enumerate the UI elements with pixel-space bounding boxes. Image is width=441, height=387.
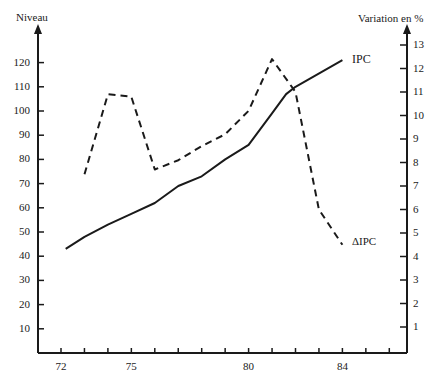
right-tick-label: 10 [413, 110, 424, 121]
right-tick-label: 12 [413, 63, 424, 74]
ipc-series-label: IPC [352, 53, 371, 65]
left-tick-label: 120 [2, 57, 30, 68]
x-tick-label: 72 [51, 361, 71, 372]
chart-plot-area [0, 0, 441, 387]
left-tick-label: 30 [2, 274, 30, 285]
left-tick-label: 50 [2, 226, 30, 237]
left-tick-label: 70 [2, 178, 30, 189]
left-tick-label: 90 [2, 129, 30, 140]
left-tick-label: 40 [2, 250, 30, 261]
left-axis-title: Niveau [16, 12, 48, 23]
right-tick-label: 2 [413, 298, 419, 309]
left-tick-label: 110 [2, 81, 30, 92]
delta-ipc-series-label: ΔIPC [352, 236, 376, 247]
x-tick-label: 75 [121, 361, 141, 372]
right-tick-label: 3 [413, 274, 419, 285]
left-axis-arrow-icon [34, 24, 42, 34]
ipc-line [66, 60, 343, 249]
right-tick-label: 9 [413, 133, 419, 144]
x-tick-label: 80 [239, 361, 259, 372]
left-tick-label: 80 [2, 153, 30, 164]
left-tick-label: 60 [2, 202, 30, 213]
left-tick-label: 10 [2, 323, 30, 334]
right-tick-label: 13 [413, 39, 424, 50]
right-tick-label: 6 [413, 204, 419, 215]
left-tick-label: 20 [2, 299, 30, 310]
right-tick-label: 5 [413, 227, 419, 238]
right-tick-label: 11 [413, 86, 424, 97]
right-tick-label: 4 [413, 251, 419, 262]
right-tick-label: 8 [413, 157, 419, 168]
left-tick-label: 100 [2, 105, 30, 116]
right-tick-label: 7 [413, 180, 419, 191]
x-tick-label: 84 [332, 361, 352, 372]
right-axis-title: Variation en % [358, 13, 423, 24]
right-tick-label: 1 [413, 321, 419, 332]
right-axis-arrow-icon [403, 24, 411, 34]
